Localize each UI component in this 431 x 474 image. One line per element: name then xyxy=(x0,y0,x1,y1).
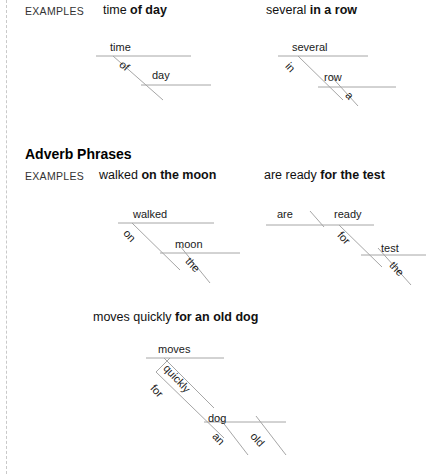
diagram-moves-quickly-for-an-old-dog xyxy=(146,340,286,470)
slant-for xyxy=(156,372,224,438)
dword-dog: dog xyxy=(208,412,226,424)
phrase-walked-on-the-moon: walked on the moon xyxy=(99,168,216,182)
phrase-plain-text: moves quickly xyxy=(93,310,175,324)
phrase-moves-quickly-for-an-old-dog: moves quickly for an old dog xyxy=(93,310,258,324)
phrase-are-ready-for-the-test: are ready for the test xyxy=(264,168,385,182)
section-heading-adverb-phrases: Adverb Phrases xyxy=(25,146,132,162)
phrase-bold-text: on the moon xyxy=(141,168,216,182)
phrase-bold-text: of day xyxy=(130,3,167,17)
dword-time: time xyxy=(110,41,131,53)
examples-label-adverb: EXAMPLES xyxy=(25,170,84,182)
examples-label-adjective: EXAMPLES xyxy=(25,5,84,17)
dword-several: several xyxy=(292,41,327,53)
phrase-plain-text: walked xyxy=(99,168,141,182)
dword-day: day xyxy=(152,69,170,81)
slant-on xyxy=(132,223,180,270)
phrase-bold-text: for an old dog xyxy=(175,310,258,324)
phrase-bold-text: in a row xyxy=(310,3,357,17)
phrase-several-in-a-row: several in a row xyxy=(266,3,357,17)
phrase-plain-text: several xyxy=(266,3,310,17)
dword-moves: moves xyxy=(158,343,190,355)
dword-ready: ready xyxy=(334,208,362,220)
dword-walked: walked xyxy=(133,208,167,220)
phrase-plain-text: time xyxy=(103,3,130,17)
page-gutter-rule xyxy=(6,0,7,474)
dword-are: are xyxy=(277,208,293,220)
dword-moon: moon xyxy=(175,238,203,250)
phrase-plain-text: are ready xyxy=(264,168,320,182)
phrase-time-of-day: time of day xyxy=(103,3,167,17)
dword-row: row xyxy=(324,71,342,83)
phrase-bold-text: for the test xyxy=(320,168,385,182)
dword-test: test xyxy=(381,242,399,254)
